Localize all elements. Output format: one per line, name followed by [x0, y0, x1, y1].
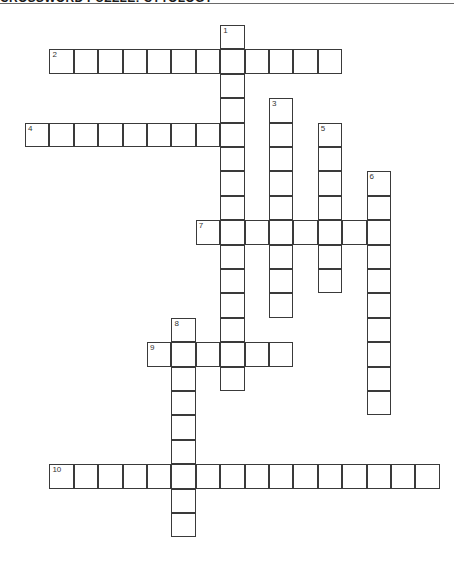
clue-number: 1: [223, 27, 227, 35]
crossword-cell[interactable]: [318, 245, 342, 269]
crossword-cell[interactable]: [147, 464, 171, 488]
crossword-cell[interactable]: 10: [49, 464, 73, 488]
crossword-cell[interactable]: [220, 269, 244, 293]
crossword-cell[interactable]: 4: [25, 123, 49, 147]
crossword-cell[interactable]: [171, 489, 195, 513]
crossword-cell[interactable]: 6: [367, 171, 391, 195]
crossword-cell[interactable]: [171, 342, 195, 366]
crossword-cell[interactable]: [220, 49, 244, 73]
clue-number: 6: [370, 173, 374, 181]
crossword-cell[interactable]: 7: [196, 220, 220, 244]
crossword-cell[interactable]: 9: [147, 342, 171, 366]
crossword-cell[interactable]: [220, 196, 244, 220]
crossword-cell[interactable]: [220, 342, 244, 366]
crossword-cell[interactable]: [367, 342, 391, 366]
crossword-cell[interactable]: [220, 293, 244, 317]
crossword-cell[interactable]: [318, 196, 342, 220]
crossword-cell[interactable]: [171, 49, 195, 73]
crossword-cell[interactable]: [293, 464, 317, 488]
crossword-cell[interactable]: [367, 367, 391, 391]
crossword-cell[interactable]: [171, 391, 195, 415]
clue-number: 3: [272, 100, 276, 108]
crossword-cell[interactable]: [98, 464, 122, 488]
clue-number: 2: [52, 51, 56, 59]
crossword-cell[interactable]: [196, 342, 220, 366]
crossword-cell[interactable]: [269, 49, 293, 73]
crossword-cell[interactable]: [220, 74, 244, 98]
crossword-cell[interactable]: [293, 220, 317, 244]
crossword-cell[interactable]: [74, 123, 98, 147]
crossword-cell[interactable]: [147, 49, 171, 73]
crossword-cell[interactable]: [367, 220, 391, 244]
clue-number: 10: [52, 466, 61, 474]
crossword-cell[interactable]: 1: [220, 25, 244, 49]
crossword-cell[interactable]: [98, 123, 122, 147]
crossword-cell[interactable]: [245, 220, 269, 244]
crossword-cell[interactable]: [367, 293, 391, 317]
crossword-cell[interactable]: [367, 318, 391, 342]
crossword-cell[interactable]: [147, 123, 171, 147]
crossword-cell[interactable]: 3: [269, 98, 293, 122]
crossword-cell[interactable]: [123, 464, 147, 488]
crossword-cell[interactable]: [318, 269, 342, 293]
crossword-cell[interactable]: [220, 147, 244, 171]
crossword-cell[interactable]: 8: [171, 318, 195, 342]
crossword-cell[interactable]: [171, 440, 195, 464]
crossword-cell[interactable]: [367, 245, 391, 269]
crossword-cell[interactable]: [245, 464, 269, 488]
crossword-cell[interactable]: [196, 464, 220, 488]
crossword-cell[interactable]: [269, 342, 293, 366]
crossword-cell[interactable]: [196, 49, 220, 73]
crossword-cell[interactable]: [49, 123, 73, 147]
crossword-cell[interactable]: [220, 220, 244, 244]
crossword-cell[interactable]: [269, 245, 293, 269]
crossword-cell[interactable]: [269, 196, 293, 220]
crossword-cell[interactable]: [220, 123, 244, 147]
crossword-cell[interactable]: [123, 123, 147, 147]
crossword-cell[interactable]: [391, 464, 415, 488]
clue-number: 8: [174, 320, 178, 328]
crossword-cell[interactable]: [342, 220, 366, 244]
crossword-cell[interactable]: [220, 171, 244, 195]
crossword-cell[interactable]: [318, 171, 342, 195]
crossword-cell[interactable]: [220, 464, 244, 488]
clue-number: 7: [199, 222, 203, 230]
crossword-cell[interactable]: [220, 245, 244, 269]
crossword-cell[interactable]: [123, 49, 147, 73]
crossword-cell[interactable]: [342, 464, 366, 488]
crossword-cell[interactable]: [269, 464, 293, 488]
clue-number: 5: [321, 125, 325, 133]
crossword-cell[interactable]: [318, 49, 342, 73]
crossword-cell[interactable]: 5: [318, 123, 342, 147]
crossword-cell[interactable]: [269, 269, 293, 293]
crossword-cell[interactable]: [318, 220, 342, 244]
crossword-cell[interactable]: [293, 49, 317, 73]
crossword-cell[interactable]: [269, 293, 293, 317]
crossword-cell[interactable]: [74, 49, 98, 73]
crossword-cell[interactable]: [171, 464, 195, 488]
crossword-cell[interactable]: [196, 123, 220, 147]
crossword-cell[interactable]: [269, 123, 293, 147]
crossword-cell[interactable]: [220, 318, 244, 342]
crossword-cell[interactable]: [98, 49, 122, 73]
crossword-cell[interactable]: [220, 98, 244, 122]
crossword-cell[interactable]: [269, 220, 293, 244]
crossword-cell[interactable]: [171, 513, 195, 537]
crossword-cell[interactable]: [171, 415, 195, 439]
crossword-cell[interactable]: [171, 123, 195, 147]
crossword-cell[interactable]: [269, 171, 293, 195]
crossword-cell[interactable]: [367, 196, 391, 220]
crossword-cell[interactable]: [245, 342, 269, 366]
crossword-cell[interactable]: [318, 464, 342, 488]
crossword-cell[interactable]: 2: [49, 49, 73, 73]
crossword-cell[interactable]: [269, 147, 293, 171]
crossword-cell[interactable]: [220, 367, 244, 391]
crossword-cell[interactable]: [74, 464, 98, 488]
crossword-cell[interactable]: [245, 49, 269, 73]
crossword-cell[interactable]: [367, 269, 391, 293]
crossword-cell[interactable]: [415, 464, 439, 488]
crossword-cell[interactable]: [367, 391, 391, 415]
crossword-cell[interactable]: [318, 147, 342, 171]
crossword-cell[interactable]: [171, 367, 195, 391]
crossword-cell[interactable]: [367, 464, 391, 488]
